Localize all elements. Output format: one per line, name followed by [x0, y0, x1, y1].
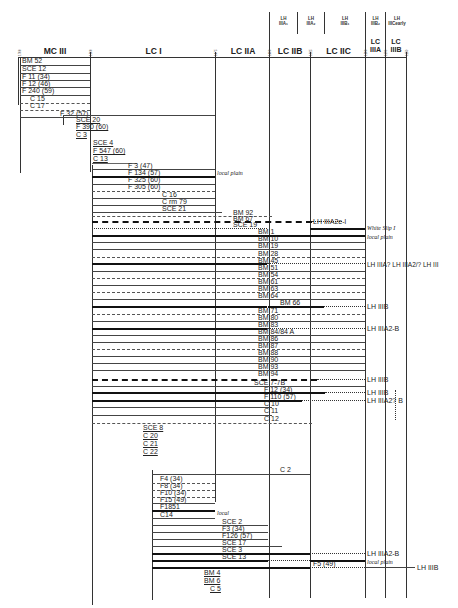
- period-lc2a: LC IIA: [217, 46, 269, 56]
- note-lh3b: LH IIIB: [417, 564, 438, 572]
- row-line: [92, 314, 365, 315]
- row-line: [268, 560, 310, 561]
- period-lc2c: LC IIC: [312, 46, 365, 56]
- row-line: [92, 299, 365, 300]
- note-lh3a2b: LH IIIA2-B: [367, 550, 399, 558]
- boundary-line: [365, 52, 366, 598]
- row-label: F 240 (59): [22, 87, 54, 95]
- lh-3c-early-header: LHIIICearly: [386, 16, 408, 26]
- row-line: [92, 292, 365, 293]
- boundary-line: [18, 57, 19, 105]
- note-lh3b: LH IIIB: [367, 303, 388, 311]
- row-label: C 11: [264, 407, 278, 415]
- period-lc3a: LCIIIA: [366, 38, 385, 54]
- row-line: [92, 198, 215, 199]
- row-line: [310, 228, 365, 230]
- lh-3a2-header: LHIIIA₂: [298, 16, 324, 26]
- row-line: [92, 306, 267, 308]
- row-line: [92, 242, 365, 243]
- row-line: [92, 407, 272, 408]
- row-line: [92, 349, 365, 350]
- row-label: F 547 (60): [93, 147, 125, 155]
- note-local: local: [217, 509, 229, 517]
- period-lc2b: LC IIB: [270, 46, 310, 56]
- row-label: SCE 8: [143, 424, 163, 432]
- row-line: [92, 356, 365, 357]
- row-line: [92, 363, 365, 364]
- row-line: [92, 370, 365, 371]
- note-local-plain: local plain: [217, 169, 243, 177]
- row-line: [310, 553, 365, 554]
- row-label: F 305 (60): [128, 183, 160, 191]
- row-line: [152, 518, 215, 519]
- row-line: [92, 249, 365, 250]
- row-line: [310, 567, 365, 568]
- note-white-slip: White Slip I: [367, 224, 395, 232]
- row-label: C 21: [143, 440, 158, 448]
- row-line: [152, 539, 268, 540]
- lh-3a1-header: LHIIIA₁: [270, 16, 297, 26]
- row-line: [92, 386, 365, 387]
- row-line: [92, 271, 365, 272]
- boundary-line: [395, 390, 396, 420]
- row-label: C 22: [143, 448, 158, 456]
- row-line: [92, 328, 267, 330]
- row-label: C 5: [210, 585, 221, 593]
- row-line: [92, 335, 365, 336]
- note-lh3a2el: LH IIIA2e-l: [313, 218, 346, 226]
- row-line: [92, 263, 267, 265]
- note-lh3b: LH IIIB: [367, 389, 388, 397]
- row-line: [324, 306, 365, 307]
- row-line: [92, 285, 365, 286]
- period-mc3: MC III: [20, 46, 90, 56]
- row-line: [92, 415, 272, 416]
- row-label: C 2: [280, 466, 291, 474]
- year-tick: 1700: [18, 49, 22, 56]
- row-line: [365, 567, 415, 568]
- row-label: C 12: [264, 415, 279, 423]
- note-lh3a-multi: LH IIIA? LH IIIA2/? LH III: [367, 261, 439, 269]
- row-label: C 13: [93, 155, 108, 163]
- row-line: [152, 567, 310, 569]
- row-line: [302, 400, 365, 401]
- row-line: [63, 115, 215, 116]
- header-baseline: [18, 57, 406, 58]
- row-label: C 20: [143, 432, 158, 440]
- row-label: C 17: [30, 102, 45, 110]
- row-line: [152, 546, 282, 547]
- note-lh3a2b: LH IIIA2? B: [367, 397, 403, 405]
- note-local-plain: local plain: [367, 558, 393, 566]
- row-label: C 3: [76, 131, 87, 139]
- row-line: [152, 560, 268, 562]
- row-line: [317, 379, 365, 380]
- row-line: [152, 525, 268, 526]
- boundary-line: [90, 52, 91, 172]
- row-line: [267, 263, 365, 264]
- note-local-plain: local plain: [367, 233, 393, 241]
- row-label: BM 6: [204, 577, 220, 585]
- boundary-line: [406, 52, 407, 598]
- period-lc1: LC I: [92, 46, 215, 56]
- row-line: [92, 221, 312, 223]
- row-line: [92, 191, 215, 192]
- row-line: [92, 278, 365, 279]
- row-line: [325, 392, 365, 393]
- row-label: SCE 12: [22, 65, 46, 73]
- row-line: [92, 342, 365, 343]
- note-lh3b: LH IIIB: [367, 376, 388, 384]
- row-line: [92, 212, 222, 213]
- row-label: BM 4: [204, 569, 220, 577]
- row-line: [92, 228, 267, 229]
- period-lc3b: LCIIIB: [386, 38, 406, 54]
- lh-3b1-header: LHIIIB₁: [325, 16, 365, 26]
- row-line: [92, 423, 312, 424]
- row-line: [92, 205, 215, 206]
- row-line: [92, 257, 365, 258]
- row-label: F 390 (60): [76, 123, 108, 131]
- boundary-line: [310, 52, 311, 598]
- lh-3b2-header: LHIIIB₂: [366, 16, 385, 26]
- row-label: BM 52: [22, 57, 42, 65]
- boundary-line: [20, 57, 21, 173]
- row-line: [92, 321, 365, 322]
- boundary-line: [92, 165, 93, 605]
